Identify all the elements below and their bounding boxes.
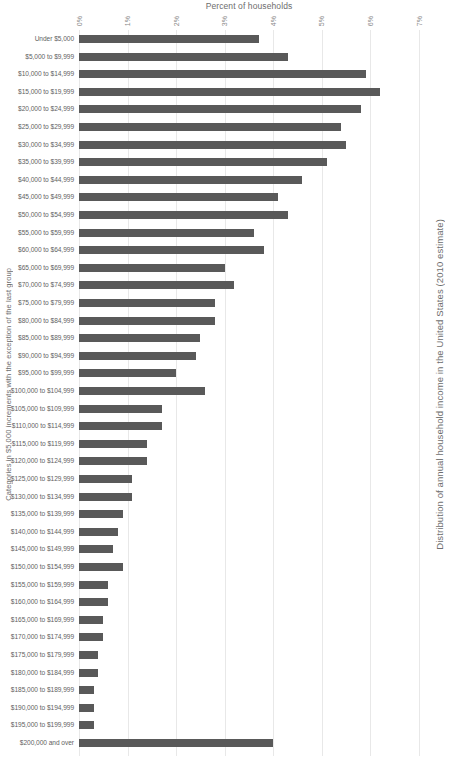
bar[interactable] bbox=[79, 299, 215, 307]
chart-row: $30,000 to $34,999 bbox=[0, 136, 450, 154]
x-tick-label-text: 2% bbox=[173, 16, 180, 26]
bar[interactable] bbox=[79, 158, 327, 166]
x-tick-label-4pct: 4% bbox=[264, 12, 282, 30]
bar[interactable] bbox=[79, 721, 94, 729]
bar[interactable] bbox=[79, 211, 288, 219]
bar[interactable] bbox=[79, 141, 346, 149]
category-label: $80,000 to $84,999 bbox=[0, 312, 74, 330]
category-label: $10,000 to $14,999 bbox=[0, 65, 74, 83]
category-label: $75,000 to $79,999 bbox=[0, 294, 74, 312]
category-label: $30,000 to $34,999 bbox=[0, 136, 74, 154]
bar[interactable] bbox=[79, 281, 234, 289]
chart-row: $200,000 and over bbox=[0, 734, 450, 752]
bar[interactable] bbox=[79, 475, 132, 483]
bar[interactable] bbox=[79, 616, 103, 624]
bar[interactable] bbox=[79, 651, 98, 659]
bar[interactable] bbox=[79, 545, 113, 553]
bar[interactable] bbox=[79, 598, 108, 606]
chart-row: $140,000 to $144,999 bbox=[0, 523, 450, 541]
category-label: $180,000 to $184,999 bbox=[0, 664, 74, 682]
bar[interactable] bbox=[79, 70, 366, 78]
category-label: $35,000 to $39,999 bbox=[0, 153, 74, 171]
chart-row: $65,000 to $69,999 bbox=[0, 259, 450, 277]
category-label: $5,000 to $9,999 bbox=[0, 48, 74, 66]
chart-row: $115,000 to $119,999 bbox=[0, 435, 450, 453]
chart-row: $135,000 to $139,999 bbox=[0, 505, 450, 523]
chart-row: $190,000 to $194,999 bbox=[0, 699, 450, 717]
bar[interactable] bbox=[79, 633, 103, 641]
bar[interactable] bbox=[79, 669, 98, 677]
category-label: $115,000 to $119,999 bbox=[0, 435, 74, 453]
chart-row: $100,000 to $104,999 bbox=[0, 382, 450, 400]
chart-row: $145,000 to $149,999 bbox=[0, 540, 450, 558]
x-tick-label-text: 3% bbox=[221, 16, 228, 26]
category-label: Under $5,000 bbox=[0, 30, 74, 48]
x-tick-label-0pct: 0% bbox=[70, 12, 88, 30]
x-tick-label-text: 7% bbox=[416, 16, 423, 26]
bar[interactable] bbox=[79, 53, 288, 61]
bar[interactable] bbox=[79, 739, 273, 747]
bar[interactable] bbox=[79, 264, 225, 272]
bar[interactable] bbox=[79, 193, 278, 201]
chart-row: $50,000 to $54,999 bbox=[0, 206, 450, 224]
bar[interactable] bbox=[79, 528, 118, 536]
bar[interactable] bbox=[79, 510, 123, 518]
chart-row: $5,000 to $9,999 bbox=[0, 48, 450, 66]
category-label: $40,000 to $44,999 bbox=[0, 171, 74, 189]
bar[interactable] bbox=[79, 317, 215, 325]
chart-row: $150,000 to $154,999 bbox=[0, 558, 450, 576]
x-tick-label-6pct: 6% bbox=[361, 12, 379, 30]
bar[interactable] bbox=[79, 123, 341, 131]
bar[interactable] bbox=[79, 229, 254, 237]
bar[interactable] bbox=[79, 563, 123, 571]
chart-row: $185,000 to $189,999 bbox=[0, 681, 450, 699]
bar[interactable] bbox=[79, 387, 205, 395]
category-label: $155,000 to $159,999 bbox=[0, 576, 74, 594]
category-label: $110,000 to $114,999 bbox=[0, 417, 74, 435]
chart-row: Under $5,000 bbox=[0, 30, 450, 48]
chart-row: $105,000 to $109,999 bbox=[0, 400, 450, 418]
category-label: $185,000 to $189,999 bbox=[0, 681, 74, 699]
bar[interactable] bbox=[79, 457, 147, 465]
x-tick-label-2pct: 2% bbox=[167, 12, 185, 30]
chart-row: $80,000 to $84,999 bbox=[0, 312, 450, 330]
bar[interactable] bbox=[79, 334, 200, 342]
bar[interactable] bbox=[79, 493, 132, 501]
category-label: $150,000 to $154,999 bbox=[0, 558, 74, 576]
bar[interactable] bbox=[79, 369, 176, 377]
chart-row: $45,000 to $49,999 bbox=[0, 188, 450, 206]
bar[interactable] bbox=[79, 352, 196, 360]
bar[interactable] bbox=[79, 704, 94, 712]
chart-row: $195,000 to $199,999 bbox=[0, 716, 450, 734]
chart-row: $130,000 to $134,999 bbox=[0, 488, 450, 506]
bar[interactable] bbox=[79, 405, 162, 413]
bar[interactable] bbox=[79, 176, 302, 184]
category-label: $95,000 to $99,999 bbox=[0, 364, 74, 382]
bar[interactable] bbox=[79, 686, 94, 694]
chart-row: $165,000 to $169,999 bbox=[0, 611, 450, 629]
category-label: $165,000 to $169,999 bbox=[0, 611, 74, 629]
x-tick-label-text: 0% bbox=[76, 16, 83, 26]
x-tick-label-text: 5% bbox=[318, 16, 325, 26]
bar[interactable] bbox=[79, 35, 259, 43]
category-label: $125,000 to $129,999 bbox=[0, 470, 74, 488]
category-label: $85,000 to $89,999 bbox=[0, 329, 74, 347]
chart-row: $155,000 to $159,999 bbox=[0, 576, 450, 594]
bar[interactable] bbox=[79, 105, 361, 113]
bar[interactable] bbox=[79, 422, 162, 430]
x-axis-tick-labels: 0%1%2%3%4%5%6%7% bbox=[0, 12, 450, 30]
bar[interactable] bbox=[79, 246, 264, 254]
bar[interactable] bbox=[79, 581, 108, 589]
category-label: $170,000 to $174,999 bbox=[0, 628, 74, 646]
category-label: $145,000 to $149,999 bbox=[0, 540, 74, 558]
bar[interactable] bbox=[79, 88, 380, 96]
chart-row: $25,000 to $29,999 bbox=[0, 118, 450, 136]
category-label: $70,000 to $74,999 bbox=[0, 276, 74, 294]
bar[interactable] bbox=[79, 440, 147, 448]
category-label: $65,000 to $69,999 bbox=[0, 259, 74, 277]
chart-row: $95,000 to $99,999 bbox=[0, 364, 450, 382]
category-label: $120,000 to $124,999 bbox=[0, 452, 74, 470]
x-tick-label-1pct: 1% bbox=[119, 12, 137, 30]
chart-row: $160,000 to $164,999 bbox=[0, 593, 450, 611]
category-label: $55,000 to $59,999 bbox=[0, 224, 74, 242]
